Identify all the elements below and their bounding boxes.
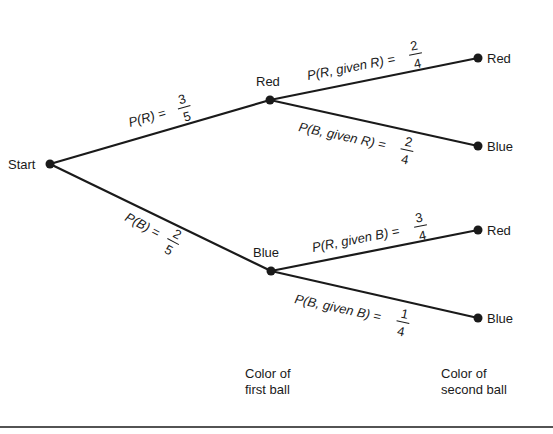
caption-line: second ball <box>441 382 507 398</box>
prob-den: 4 <box>417 227 427 243</box>
prob-num: 3 <box>414 210 424 226</box>
node-blue-red <box>474 226 483 235</box>
label-red: Red <box>256 74 280 89</box>
prob-num: 2 <box>409 38 419 54</box>
prob-den: 5 <box>181 108 192 124</box>
prob-den: 4 <box>400 151 410 167</box>
prob-num: 2 <box>404 134 414 150</box>
prob-text: P(R, given B) = <box>311 223 401 255</box>
label-red-red: Red <box>487 51 511 66</box>
prob-num: 2 <box>170 226 183 243</box>
prob-num: 1 <box>400 306 410 322</box>
node-blue <box>267 267 276 276</box>
prob-start-blue: P(B) = 2 5 <box>118 202 186 259</box>
node-red-red <box>474 54 483 63</box>
prob-text: P(B) = <box>123 209 163 240</box>
label-blue-red: Red <box>487 223 511 238</box>
label-blue-blue: Blue <box>487 311 513 326</box>
prob-num: 3 <box>176 91 187 107</box>
prob-text: P(B, given R) = <box>297 119 387 152</box>
label-start: Start <box>8 157 36 172</box>
label-red-blue: Blue <box>487 139 513 154</box>
prob-red-red: P(R, given R) = 2 4 <box>304 37 425 92</box>
label-blue: Blue <box>253 245 279 260</box>
caption-line: Color of <box>441 366 507 382</box>
caption-second-ball: Color of second ball <box>441 366 507 398</box>
prob-den: 5 <box>162 242 175 259</box>
prob-den: 4 <box>396 323 406 339</box>
prob-blue-red: P(R, given B) = 3 4 <box>309 209 430 264</box>
prob-text: P(R) = <box>127 105 168 130</box>
prob-den: 4 <box>412 55 422 71</box>
prob-text: P(B, given B) = <box>293 291 382 324</box>
node-start <box>46 160 55 169</box>
prob-blue-blue: P(B, given B) = 1 4 <box>291 283 412 340</box>
edge-start-blue <box>50 164 271 271</box>
caption-line: first ball <box>245 382 291 398</box>
caption-first-ball: Color of first ball <box>245 366 291 398</box>
node-red-blue <box>474 142 483 151</box>
node-red <box>266 96 275 105</box>
node-blue-blue <box>474 314 483 323</box>
caption-line: Color of <box>245 366 291 382</box>
